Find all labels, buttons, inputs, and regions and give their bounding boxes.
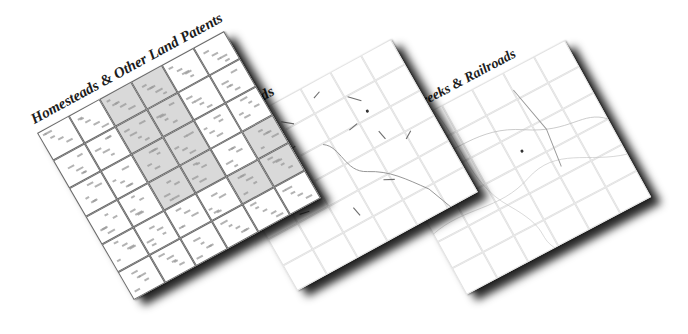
parcel-grid (37, 31, 321, 300)
map-sheet-homesteads: Homesteads & Other Land Patents (37, 31, 321, 300)
